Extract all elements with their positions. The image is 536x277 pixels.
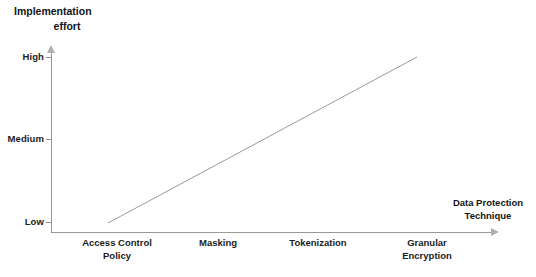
y-tick-label-low: Low [25, 216, 44, 227]
x-axis-line [51, 232, 494, 233]
chart-title-line-1: Implementation [8, 4, 126, 19]
y-tick-mark-low [46, 222, 51, 223]
chart-canvas: Implementation effort High Medium Low Ac… [0, 0, 536, 277]
y-tick-mark-medium [46, 139, 51, 140]
chart-title: Implementation effort [8, 4, 126, 34]
x-axis-arrow-icon [491, 228, 499, 236]
y-tick-label-high: High [22, 51, 44, 62]
x-axis-title-line-1: Data Protection [440, 196, 536, 209]
x-axis-title-line-2: Technique [440, 209, 536, 222]
x-tick-label-masking: Masking [168, 236, 268, 249]
chart-title-line-2: effort [8, 19, 126, 34]
x-tick-label-access-control-policy: Access Control Policy [62, 236, 172, 262]
x-tick-label-line: Granular [382, 236, 472, 249]
trend-line [108, 57, 417, 223]
x-tick-label-line: Masking [168, 236, 268, 249]
x-tick-label-line: Access Control [62, 236, 172, 249]
x-axis-title: Data Protection Technique [440, 196, 536, 222]
y-axis-arrow-icon [47, 45, 55, 53]
x-tick-label-tokenization: Tokenization [268, 236, 368, 249]
x-tick-label-line: Encryption [382, 249, 472, 262]
y-axis-line [51, 52, 52, 233]
y-tick-mark-high [46, 57, 51, 58]
y-tick-label-medium: Medium [8, 133, 45, 144]
x-tick-label-line: Policy [62, 249, 172, 262]
x-tick-label-granular-encryption: Granular Encryption [382, 236, 472, 262]
x-tick-label-line: Tokenization [268, 236, 368, 249]
